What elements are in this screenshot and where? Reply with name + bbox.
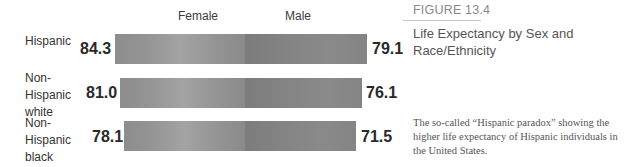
- male-segment: [245, 78, 362, 108]
- bar-hispanic: [115, 34, 367, 64]
- row-label-hispanic: Hispanic: [25, 33, 71, 50]
- male-value-nonhispanic-white: 76.1: [366, 84, 397, 102]
- female-value-nonhispanic-black: 78.1: [92, 128, 123, 146]
- figure-label-underline: [403, 20, 481, 21]
- row-label-text: Non-Hispanic white: [25, 71, 71, 119]
- male-value-hispanic: 79.1: [372, 40, 403, 58]
- row-label-nonhispanic-black: Non-Hispanic black: [25, 115, 75, 166]
- figure-title: Life Expectancy by Sex and Race/Ethnicit…: [413, 25, 613, 59]
- female-segment: [120, 78, 245, 108]
- figure-label: FIGURE 13.4: [413, 3, 490, 17]
- figure-caption: The so-called “Hispanic paradox” showing…: [413, 116, 628, 158]
- female-column-header: Female: [178, 9, 218, 23]
- female-value-hispanic: 84.3: [80, 40, 111, 58]
- female-segment: [124, 121, 245, 151]
- male-value-nonhispanic-black: 71.5: [361, 128, 392, 146]
- row-label-text: Non-Hispanic black: [25, 116, 71, 164]
- female-value-nonhispanic-white: 81.0: [86, 84, 117, 102]
- row-label-nonhispanic-white: Non-Hispanic white: [25, 70, 75, 121]
- female-segment: [115, 34, 245, 64]
- male-segment: [245, 121, 356, 151]
- bar-nonhispanic-black: [124, 121, 356, 151]
- male-segment: [245, 34, 367, 64]
- bar-nonhispanic-white: [120, 78, 362, 108]
- male-column-header: Male: [285, 9, 311, 23]
